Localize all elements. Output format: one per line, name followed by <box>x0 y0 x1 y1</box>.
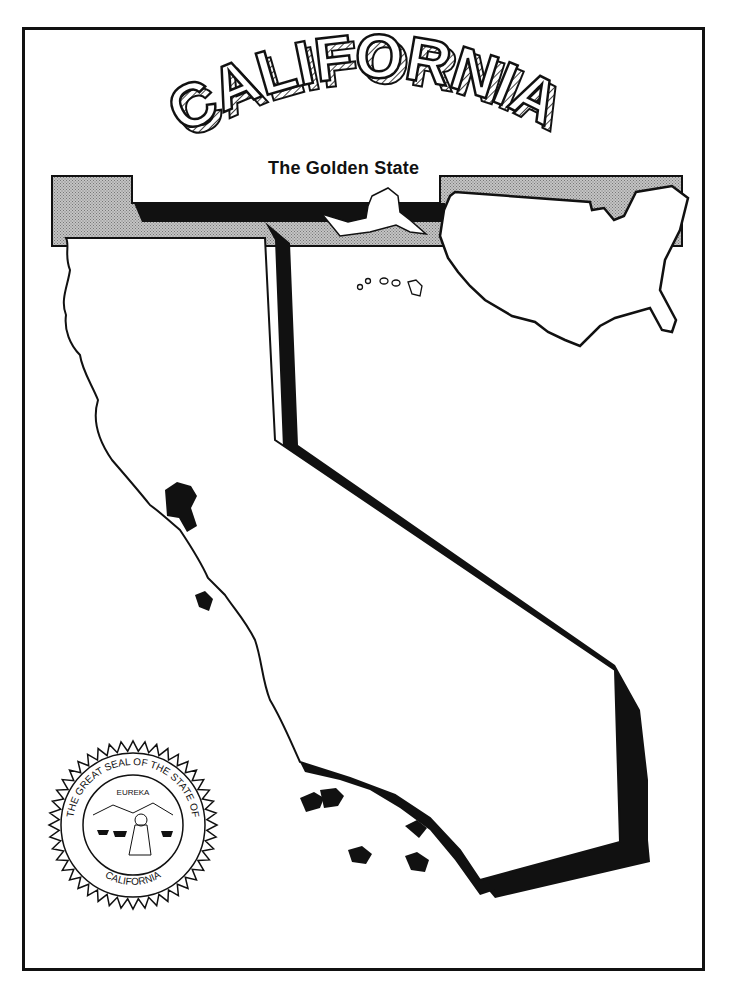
illustration: CALIFORNIA CALIFORNIA THE GREAT SEAL OF … <box>0 0 729 989</box>
svg-text:CALIFORNIA: CALIFORNIA <box>156 21 571 146</box>
svg-text:EUREKA: EUREKA <box>117 788 151 797</box>
great-seal: THE GREAT SEAL OF THE STATE OF CALIFORNI… <box>49 741 217 909</box>
hawaii-map <box>358 278 423 296</box>
title-arch: CALIFORNIA CALIFORNIA <box>120 21 610 180</box>
usa-map <box>440 186 688 346</box>
subtitle: The Golden State <box>268 158 419 179</box>
